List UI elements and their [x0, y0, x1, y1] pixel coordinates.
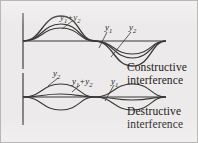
caption-line-2: interference [127, 74, 187, 87]
caption-line-1: Constructive [127, 61, 187, 74]
curve-label-sum-top: y1+y2 [60, 13, 81, 22]
wave-interference-figure: y1+y2 y1 y2 y2 y1+y2 y1 Constructive int… [0, 0, 198, 143]
curve-label-y1-top: y1 [105, 23, 112, 32]
caption-destructive-interference: Destructive interference [127, 105, 183, 130]
label-y-sub: 2 [89, 81, 92, 88]
caption-constructive-interference: Constructive interference [127, 61, 187, 86]
label-y-sub: 2 [77, 17, 80, 24]
curve-label-y1-bottom: y1 [111, 77, 118, 86]
curve-label-y2-top: y2 [129, 23, 136, 32]
caption-line-2: interference [127, 118, 183, 131]
label-y-sub: 2 [57, 73, 60, 80]
caption-line-1: Destructive [127, 105, 183, 118]
curve-label-sum-bottom: y1+y2 [72, 77, 93, 86]
label-y-sub: 1 [109, 27, 112, 34]
label-y-sub: 1 [115, 81, 118, 88]
curve-label-y2-bottom: y2 [53, 69, 60, 78]
label-y-sub: 2 [133, 27, 136, 34]
